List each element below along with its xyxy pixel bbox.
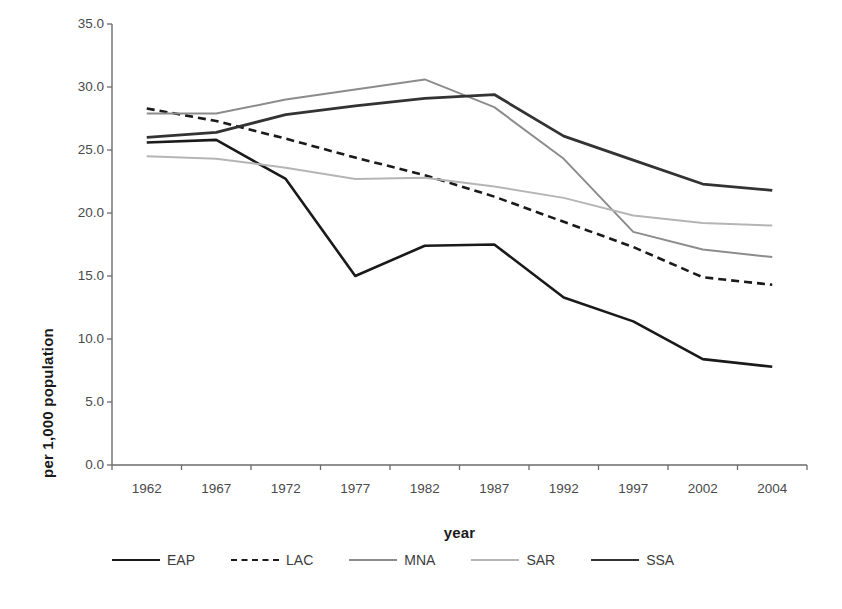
legend-swatch-ssa-icon	[591, 559, 639, 561]
y-axis-tick-label: 30.0	[58, 79, 104, 94]
legend-item-ssa[interactable]: SSA	[591, 552, 674, 568]
x-axis-tick-label: 1977	[320, 481, 390, 496]
legend-label: SSA	[646, 552, 674, 568]
y-axis-tick-label: 5.0	[58, 394, 104, 409]
legend-label: MNA	[404, 552, 435, 568]
legend-label: EAP	[167, 552, 195, 568]
x-axis-tick-label: 1997	[598, 481, 668, 496]
x-axis-tick-label: 1972	[251, 481, 321, 496]
x-axis-tick-label: 2004	[737, 481, 807, 496]
legend-label: LAC	[286, 552, 313, 568]
series-line-mna	[147, 79, 773, 257]
chart-legend: EAPLACMNASARSSA	[112, 552, 812, 568]
x-axis-tick-label: 1992	[529, 481, 599, 496]
x-axis-tick-label: 1962	[112, 481, 182, 496]
x-axis-tick-label: 1967	[181, 481, 251, 496]
y-axis-tick-label: 15.0	[58, 268, 104, 283]
series-line-eap	[147, 140, 773, 367]
y-axis-title-wrapper: per 1,000 population	[14, 150, 40, 350]
plot-area	[0, 0, 842, 609]
legend-item-sar[interactable]: SAR	[471, 552, 555, 568]
legend-item-eap[interactable]: EAP	[112, 552, 195, 568]
legend-swatch-lac-icon	[231, 559, 279, 561]
series-line-sar	[147, 156, 773, 225]
x-axis-tick-label: 2002	[668, 481, 738, 496]
x-axis-tick-label: 1987	[459, 481, 529, 496]
y-axis-tick-label: 0.0	[58, 457, 104, 472]
y-axis-tick-label: 35.0	[58, 16, 104, 31]
legend-label: SAR	[526, 552, 555, 568]
x-axis-tick-label: 1982	[390, 481, 460, 496]
y-axis-tick-label: 25.0	[58, 142, 104, 157]
legend-swatch-sar-icon	[471, 559, 519, 561]
y-axis-tick-labels: 0.05.010.015.020.025.030.035.0	[56, 0, 104, 609]
line-chart: per 1,000 population 0.05.010.015.020.02…	[0, 0, 842, 609]
y-axis-tick-label: 10.0	[58, 331, 104, 346]
x-axis-title: year	[112, 524, 807, 541]
legend-swatch-eap-icon	[112, 559, 160, 561]
series-line-lac	[147, 108, 773, 284]
legend-item-mna[interactable]: MNA	[349, 552, 435, 568]
legend-swatch-mna-icon	[349, 559, 397, 561]
y-axis-tick-label: 20.0	[58, 205, 104, 220]
legend-item-lac[interactable]: LAC	[231, 552, 313, 568]
